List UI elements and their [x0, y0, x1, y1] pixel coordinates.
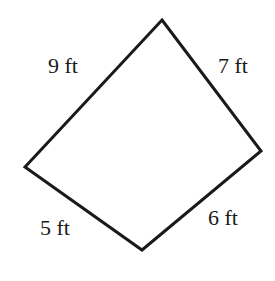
side-label-bottom-right: 6 ft — [208, 207, 238, 229]
side-label-top-left: 9 ft — [48, 55, 78, 77]
quadrilateral-diagram: 9 ft 7 ft 5 ft 6 ft — [0, 0, 275, 281]
side-label-bottom-left: 5 ft — [40, 217, 70, 239]
side-label-top-right: 7 ft — [218, 55, 248, 77]
